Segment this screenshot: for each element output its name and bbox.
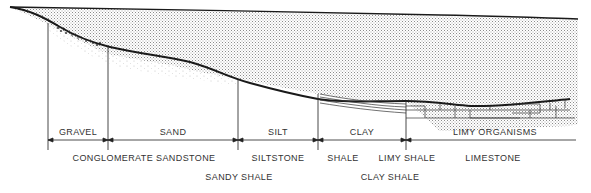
label-conglomerate-sandstone: CONGLOMERATE SANDSTONE	[73, 153, 216, 163]
label-gravel: GRAVEL	[59, 127, 97, 137]
label-sandy-shale: SANDY SHALE	[205, 172, 272, 182]
label-limy-shale: LIMY SHALE	[379, 153, 436, 163]
scale-arrows	[48, 138, 576, 142]
label-clay-shale: CLAY SHALE	[361, 172, 420, 182]
label-sand: SAND	[160, 127, 187, 137]
label-limestone: LIMESTONE	[465, 153, 520, 163]
label-silt: SILT	[268, 127, 288, 137]
facies-cross-section	[0, 0, 591, 193]
label-clay: CLAY	[350, 127, 374, 137]
label-shale: SHALE	[327, 153, 359, 163]
water-body	[10, 7, 578, 131]
label-siltstone: SILTSTONE	[252, 153, 305, 163]
label-limy-organisms: LIMY ORGANISMS	[453, 127, 537, 137]
